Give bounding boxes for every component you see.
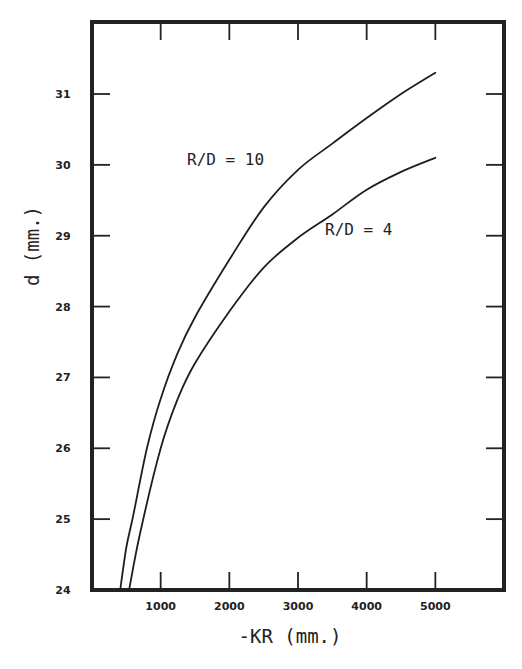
x-tick-label: 4000	[351, 600, 382, 613]
y-tick-label: 25	[55, 513, 70, 526]
y-tick-label: 28	[55, 301, 70, 314]
y-tick-label: 27	[55, 371, 70, 384]
chart: 100020003000400050002425262728293031 R/D…	[0, 0, 522, 669]
x-axis-label: -KR (mm.)	[239, 625, 342, 647]
y-tick-label: 24	[55, 584, 71, 597]
x-tick-label: 2000	[214, 600, 245, 613]
y-tick-label: 30	[55, 159, 71, 172]
y-tick-label: 31	[55, 88, 70, 101]
annotation-rd-4: R/D = 4	[325, 220, 392, 239]
axis-ticks	[92, 22, 504, 590]
curve-rd-10	[120, 73, 435, 590]
x-tick-label: 3000	[283, 600, 314, 613]
plot-frame	[92, 22, 504, 590]
x-tick-label: 1000	[145, 600, 176, 613]
y-tick-label: 29	[55, 230, 70, 243]
y-axis-label: d (mm.)	[21, 206, 43, 286]
annotation-rd-10: R/D = 10	[187, 150, 264, 169]
x-tick-label: 5000	[420, 600, 451, 613]
y-tick-label: 26	[55, 442, 71, 455]
